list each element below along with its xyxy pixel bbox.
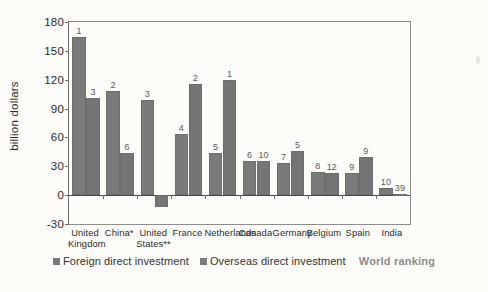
bar-foreign-7 — [311, 172, 325, 195]
x-axis-category-label: United States** — [136, 228, 170, 249]
bar-overseas-5 — [257, 161, 271, 195]
bar-rank-label: 6 — [116, 142, 138, 152]
bar-overseas-1 — [120, 153, 134, 195]
y-axis-tick-label: 120 — [44, 74, 64, 86]
legend-swatch-icon — [53, 258, 60, 265]
legend-label-series1: Foreign direct investment — [63, 255, 189, 267]
bar-rank-label: 5 — [287, 140, 309, 150]
bar-overseas-2 — [155, 195, 169, 207]
x-axis-category-label: Canada — [239, 228, 273, 239]
x-axis-category-label: Belgium — [307, 228, 341, 239]
bar-foreign-8 — [345, 173, 359, 195]
legend-swatch-icon — [200, 258, 207, 265]
x-axis-category-label: France — [170, 228, 204, 239]
y-axis-tick-mark — [65, 80, 69, 81]
plot-area: 1801501209060300-30132634251610758129910… — [68, 21, 411, 225]
bar-rank-label: 2 — [185, 73, 207, 83]
y-axis-tick-label: 30 — [51, 160, 64, 172]
y-axis-tick-mark — [65, 109, 69, 110]
chart-figure: billion dollars 1801501209060300-3013263… — [0, 0, 488, 292]
bar-rank-label: 9 — [355, 146, 377, 156]
bar-overseas-4 — [223, 80, 237, 195]
x-axis-category-label: India — [375, 228, 409, 239]
bar-foreign-6 — [277, 163, 291, 195]
legend-item-foreign-direct-investment: Foreign direct investment — [53, 255, 189, 267]
bar-rank-label: 2 — [102, 80, 124, 90]
y-axis-tick-mark — [65, 22, 69, 23]
y-axis-tick-label: 0 — [57, 189, 64, 201]
bar-overseas-0 — [86, 98, 100, 195]
bar-rank-label: 10 — [253, 150, 275, 160]
x-axis-tick-mark — [376, 195, 377, 199]
x-axis-tick-mark — [171, 195, 172, 199]
bar-rank-label: 3 — [82, 87, 104, 97]
chart-legend: Foreign direct investment Overseas direc… — [0, 255, 488, 267]
y-axis-tick-label: 180 — [44, 16, 64, 28]
bar-foreign-5 — [243, 161, 257, 195]
x-axis-tick-mark — [308, 195, 309, 199]
y-axis-tick-mark — [65, 51, 69, 52]
x-axis-tick-mark — [103, 195, 104, 199]
bar-rank-label: 12 — [321, 162, 343, 172]
x-axis-category-label: Spain — [341, 228, 375, 239]
bar-rank-label: 1 — [68, 26, 90, 36]
page-speck — [476, 56, 480, 64]
x-axis-tick-mark — [205, 195, 206, 199]
bar-overseas-6 — [291, 151, 305, 195]
bar-overseas-3 — [189, 84, 203, 196]
legend-label-series2: Overseas direct investment — [210, 255, 346, 267]
y-axis-tick-label: 90 — [51, 103, 64, 115]
y-axis-tick-label: -30 — [47, 218, 64, 230]
bar-rank-label: 1 — [219, 69, 241, 79]
bar-overseas-7 — [325, 173, 339, 195]
legend-item-overseas-direct-investment: Overseas direct investment — [200, 255, 346, 267]
bar-rank-label: 3 — [137, 89, 159, 99]
y-axis-tick-label: 150 — [44, 45, 64, 57]
y-axis-tick-mark — [65, 166, 69, 167]
y-axis-title: billion dollars — [8, 81, 20, 150]
x-axis-category-label: China* — [102, 228, 136, 239]
x-axis-tick-mark — [137, 195, 138, 199]
x-axis-tick-mark — [342, 195, 343, 199]
bar-overseas-8 — [359, 157, 373, 195]
bar-foreign-0 — [72, 37, 86, 195]
x-axis-category-label: United Kingdom — [68, 228, 102, 249]
legend-label-world-ranking: World ranking — [359, 255, 435, 267]
bar-foreign-4 — [209, 153, 223, 195]
x-axis-category-label: Germany — [273, 228, 307, 239]
x-axis-tick-mark — [274, 195, 275, 199]
bar-foreign-3 — [175, 134, 189, 196]
bar-foreign-2 — [141, 100, 155, 195]
y-axis-tick-label: 60 — [51, 131, 64, 143]
y-axis-tick-mark — [65, 224, 69, 225]
y-axis-tick-mark — [65, 137, 69, 138]
bar-overseas-9 — [393, 194, 407, 196]
x-axis-tick-mark — [240, 195, 241, 199]
x-axis-category-label: Netherlands — [204, 228, 238, 239]
bar-rank-label: 39 — [389, 183, 411, 193]
